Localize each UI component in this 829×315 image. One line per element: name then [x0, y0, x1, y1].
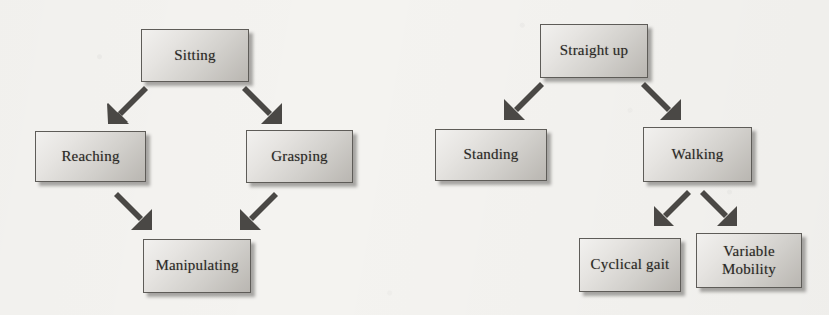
node-grasping[interactable]: Grasping — [246, 130, 353, 183]
arrow-walking-to-variable-mobility — [700, 188, 740, 230]
node-walking[interactable]: Walking — [643, 127, 752, 182]
node-standing-label: Standing — [460, 146, 523, 164]
arrow-walking-to-cyclical-gait — [651, 188, 691, 230]
node-straight-up[interactable]: Straight up — [540, 24, 648, 78]
node-manipulating-label: Manipulating — [151, 257, 242, 275]
arrow-grasping-to-manipulating — [236, 190, 278, 234]
node-sitting[interactable]: Sitting — [141, 29, 249, 82]
node-manipulating[interactable]: Manipulating — [143, 239, 251, 293]
node-reaching[interactable]: Reaching — [35, 131, 146, 182]
node-variable-mobility[interactable]: Variable Mobility — [696, 233, 802, 288]
node-grasping-label: Grasping — [267, 148, 332, 166]
node-sitting-label: Sitting — [170, 47, 219, 65]
node-reaching-label: Reaching — [57, 148, 123, 166]
node-variable-mobility-label: Variable Mobility — [718, 243, 780, 278]
node-standing[interactable]: Standing — [435, 129, 547, 181]
node-straight-up-label: Straight up — [556, 42, 632, 60]
arrow-reaching-to-manipulating — [114, 190, 156, 234]
arrow-straightup-to-standing — [500, 80, 544, 124]
node-cyclical-gait[interactable]: Cyclical gait — [579, 238, 681, 292]
node-variable-mobility-line2: Mobility — [722, 261, 776, 277]
node-walking-label: Walking — [668, 146, 728, 164]
flowchart-canvas: Sitting Reaching Grasping — [0, 0, 829, 315]
arrow-straightup-to-walking — [641, 80, 685, 124]
arrow-sitting-to-grasping — [242, 84, 286, 128]
node-cyclical-gait-label: Cyclical gait — [587, 256, 674, 274]
node-variable-mobility-line1: Variable — [723, 243, 775, 259]
arrow-sitting-to-reaching — [104, 84, 148, 128]
